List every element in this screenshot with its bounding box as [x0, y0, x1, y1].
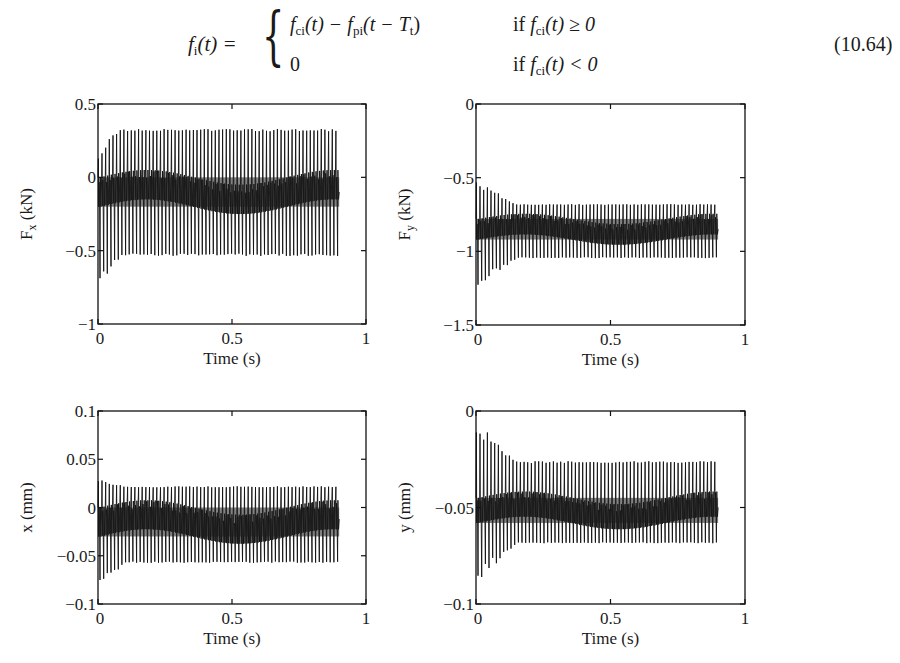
- y-axis-label: y (mm): [395, 482, 414, 533]
- y-tick-label: 0: [466, 402, 475, 421]
- x-tick-label: 0: [474, 609, 483, 628]
- y-tick-label: −0.05: [435, 499, 474, 518]
- chart-y-displacement: 00.51−0.1−0.050Time (s)y (mm): [0, 0, 900, 663]
- x-tick-label: 0.5: [600, 609, 621, 628]
- x-tick-label: 1: [741, 609, 750, 628]
- x-axis-label: Time (s): [582, 629, 639, 648]
- signal-trace: [476, 433, 718, 578]
- y-tick-label: −0.1: [443, 595, 474, 614]
